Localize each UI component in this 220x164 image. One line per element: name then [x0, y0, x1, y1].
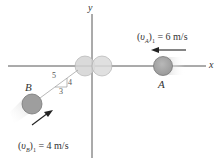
slope-horizontal-label: 3 [59, 88, 63, 96]
velocity-label-a: (υA)1 = 6 m/s [137, 32, 188, 44]
collision-diagram: y x A B (υA)1 = 6 m/s (υB)1 = 4 m/s 5 4 … [0, 0, 220, 164]
velocity-b-value: = 4 m/s [36, 140, 69, 151]
ball-a-label: A [158, 79, 165, 90]
slope-vertical-label: 4 [68, 79, 72, 87]
ball-b [22, 94, 42, 114]
ball-a [154, 57, 173, 76]
velocity-label-b: (υB)1 = 4 m/s [18, 141, 69, 153]
slope-hypotenuse-label: 5 [52, 72, 56, 80]
diagram-canvas [0, 0, 220, 164]
y-axis-label: y [88, 3, 92, 13]
collision-ghost-balls [75, 56, 112, 76]
velocity-arrow-a [151, 47, 186, 53]
x-axis-label: x [209, 60, 213, 70]
velocity-a-value: = 6 m/s [155, 31, 188, 42]
ball-b-label: B [25, 82, 32, 93]
